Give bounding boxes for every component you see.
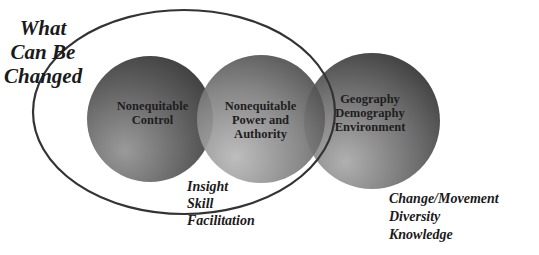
label-nonequitable-power: Nonequitable Power and Authority	[203, 100, 318, 141]
label-nonequitable-control: Nonequitable Control	[95, 100, 210, 128]
notes-change-diversity: Change/Movement Diversity Knowledge	[389, 190, 499, 244]
title-what-can-be-changed: What Can Be Changed	[4, 16, 82, 88]
notes-insight-skill: Insight Skill Facilitation	[187, 178, 255, 229]
label-geography: Geography Demography Environment	[320, 93, 420, 134]
